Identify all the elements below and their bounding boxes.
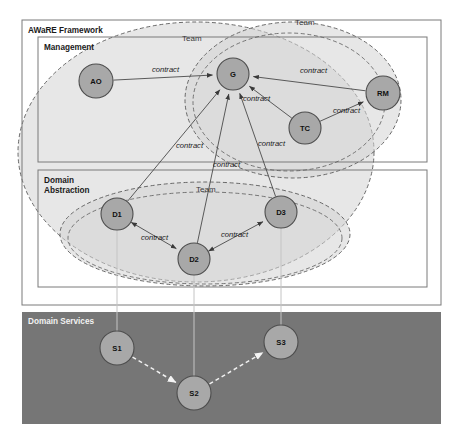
node-S1[interactable]: S1 xyxy=(100,331,134,365)
node-TC[interactable]: TC xyxy=(289,112,321,144)
edge-label-rm-g: contract xyxy=(300,66,328,75)
edge-label-tc-g: contract xyxy=(243,94,271,103)
node-D2[interactable]: D2 xyxy=(178,243,210,275)
team-group-label: Team xyxy=(196,185,216,194)
node-label-S1: S1 xyxy=(112,344,122,353)
edge-label-d1-g: contract xyxy=(176,141,204,150)
edge-label-tc-rm: contract xyxy=(333,106,361,115)
node-S3[interactable]: S3 xyxy=(264,325,298,359)
node-S2[interactable]: S2 xyxy=(177,376,211,410)
node-label-G: G xyxy=(230,70,236,79)
node-G[interactable]: G xyxy=(217,58,249,90)
node-label-S3: S3 xyxy=(276,338,285,347)
panel-domain-services xyxy=(22,312,441,424)
panel-title-domain-abstraction: Domain xyxy=(44,176,74,185)
node-D3[interactable]: D3 xyxy=(265,196,297,228)
node-D1[interactable]: D1 xyxy=(101,198,133,230)
team-group-label: Team xyxy=(295,18,315,27)
edge-label-d2-d3: contract xyxy=(221,230,249,239)
node-label-D2: D2 xyxy=(189,255,199,264)
edge-label-d3-g: contract xyxy=(258,139,286,148)
panel-title-aware: AWaRE Framework xyxy=(28,26,103,35)
node-label-RM: RM xyxy=(377,89,389,98)
node-AO[interactable]: AO xyxy=(79,64,113,98)
node-label-TC: TC xyxy=(300,124,311,133)
aware-framework-diagram: AOGRMTCD1D2D3S1S2S3 AWaRE FrameworkManag… xyxy=(0,0,462,440)
edge-label-d1-d2: contract xyxy=(141,233,169,242)
node-RM[interactable]: RM xyxy=(366,76,400,110)
node-label-S2: S2 xyxy=(189,389,198,398)
node-label-AO: AO xyxy=(90,77,101,86)
team-group-label: Team xyxy=(182,34,202,43)
node-label-D1: D1 xyxy=(112,210,122,219)
panel-title-domain-services: Domain Services xyxy=(28,317,94,326)
node-label-D3: D3 xyxy=(276,208,286,217)
panel-title-domain-abstraction: Abstraction xyxy=(44,186,90,195)
edge-label-ao-g: contract xyxy=(152,65,180,74)
diagram-canvas: AOGRMTCD1D2D3S1S2S3 AWaRE FrameworkManag… xyxy=(0,0,462,440)
panel-title-management: Management xyxy=(44,43,94,52)
edge-label-d2-g: contract xyxy=(213,160,241,169)
